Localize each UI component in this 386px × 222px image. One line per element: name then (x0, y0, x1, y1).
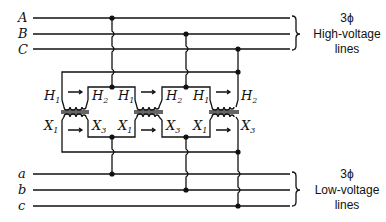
svg-text:X3: X3 (240, 118, 255, 135)
lv-label-line2: lines (335, 198, 360, 212)
transformer-1 (61, 90, 89, 132)
svg-text:H1: H1 (192, 88, 209, 105)
svg-text:X3: X3 (165, 118, 180, 135)
line-label-c: c (18, 198, 26, 213)
svg-text:H1: H1 (43, 88, 60, 105)
line-label-A: A (17, 10, 27, 25)
secondary-delta-wiring (62, 120, 241, 209)
primary-coil-icon (212, 107, 234, 110)
line-label-b: b (18, 182, 26, 197)
lv-label-line1: Low-voltage (315, 183, 380, 197)
delta-delta-transformer-diagram: A B C 3ϕ High-voltage lines (0, 0, 386, 222)
secondary-coil-icon (137, 114, 159, 117)
secondary-coil-icon (212, 114, 234, 117)
hv-label-line2: lines (335, 42, 360, 56)
arrow-icon (216, 90, 230, 94)
hv-label-line1: High-voltage (313, 27, 381, 41)
line-label-C: C (18, 42, 28, 57)
svg-text:X1: X1 (117, 118, 132, 135)
transformer-2 (134, 90, 163, 132)
arrow-icon (68, 90, 82, 94)
brace-icon (292, 16, 300, 50)
primary-delta-wiring (62, 15, 241, 100)
svg-text:H2: H2 (91, 88, 108, 105)
line-label-a: a (18, 166, 26, 181)
secondary-coil-icon (64, 114, 86, 117)
lv-phase-label: 3ϕ (340, 167, 354, 181)
svg-text:X3: X3 (91, 118, 106, 135)
primary-coil-icon (64, 107, 86, 110)
hv-phase-label: 3ϕ (340, 11, 354, 25)
arrow-icon (216, 128, 230, 132)
svg-text:H2: H2 (165, 88, 182, 105)
svg-text:X1: X1 (43, 118, 58, 135)
svg-text:H1: H1 (117, 88, 134, 105)
line-label-B: B (17, 26, 28, 41)
arrow-icon (68, 128, 82, 132)
primary-coil-icon (137, 107, 159, 110)
high-voltage-lines: A B C (17, 10, 290, 57)
brace-icon (292, 172, 300, 206)
arrow-icon (141, 128, 155, 132)
arrow-icon (141, 90, 155, 94)
svg-text:X1: X1 (192, 118, 207, 135)
low-voltage-lines: a b c (18, 166, 290, 213)
svg-text:H2: H2 (240, 88, 257, 105)
transformer-3 (209, 90, 239, 132)
